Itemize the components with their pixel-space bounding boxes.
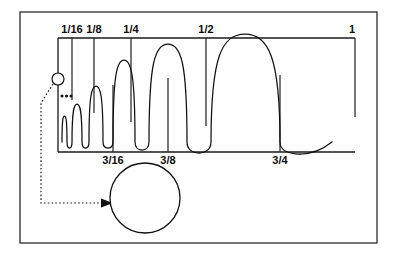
- tick-label-3-16: 3/16: [102, 154, 123, 166]
- accumulation-point-marker: [52, 73, 64, 85]
- tick-label-1-4: 1/4: [123, 23, 139, 35]
- tick-label-3-4: 3/4: [272, 154, 288, 166]
- figure-root: 1/16 1/8 1/4 1/2 1 3/16 3/8 3/4: [0, 0, 394, 255]
- leader-line: [41, 84, 101, 203]
- tick-label-3-8: 3/8: [160, 154, 175, 166]
- oscillating-curve: [62, 34, 300, 154]
- tick-label-1: 1: [349, 23, 355, 35]
- tick-label-1-8: 1/8: [86, 23, 101, 35]
- magnifier-group: [110, 163, 181, 233]
- figure-border: [20, 12, 377, 243]
- figure-canvas: 1/16 1/8 1/4 1/2 1 3/16 3/8 3/4: [0, 0, 394, 255]
- magnifier-outline: [110, 163, 180, 233]
- tick-label-1-2: 1/2: [198, 23, 213, 35]
- ellipsis-dots: [61, 95, 73, 98]
- tick-label-1-16: 1/16: [61, 23, 82, 35]
